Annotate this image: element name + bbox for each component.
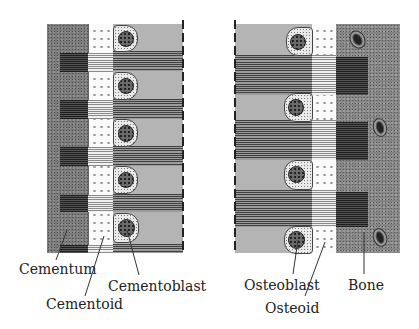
label-bone: Bone [348, 278, 384, 292]
label-cementum: Cementum [19, 262, 97, 276]
label-osteoblast: Osteoblast [244, 278, 320, 292]
label-osteoid: Osteoid [265, 301, 319, 315]
label-cementoblast: Cementoblast [108, 279, 206, 293]
label-cementoid: Cementoid [46, 297, 123, 311]
